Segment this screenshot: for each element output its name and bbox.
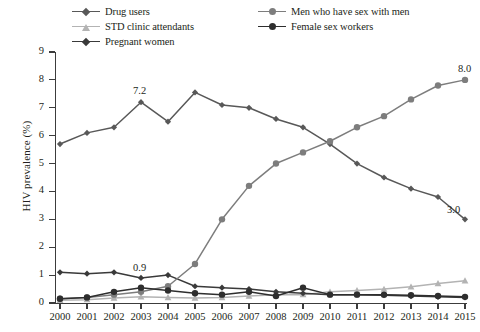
data-point-diamond-marker [381,174,387,180]
data-point-diamond-marker [246,105,252,111]
data-point-diamond-marker [57,269,63,275]
data-point-circle-marker [327,291,333,297]
data-point-circle-marker [354,124,360,130]
data-point-diamond-marker [111,269,117,275]
data-label: 0.9 [133,262,146,273]
data-point-circle-marker [192,261,198,267]
data-point-diamond-marker [165,272,171,278]
data-point-circle-marker [327,138,333,144]
data-point-circle-marker [462,77,468,83]
data-point-diamond-marker [84,130,90,136]
data-point-circle-marker [273,293,279,299]
data-point-diamond-marker [219,102,225,108]
data-point-diamond-marker [273,116,279,122]
data-label: 7.2 [133,85,146,96]
series-line [60,92,465,219]
data-point-circle-marker [435,293,441,299]
data-point-circle-marker [408,96,414,102]
data-point-circle-marker [381,291,387,297]
data-point-diamond-marker [192,283,198,289]
data-point-circle-marker [57,296,63,302]
series-layer [0,0,480,332]
data-point-circle-marker [192,290,198,296]
data-point-circle-marker [273,160,279,166]
data-label: 3.0 [447,204,460,215]
data-point-diamond-marker [84,271,90,277]
data-point-circle-marker [111,289,117,295]
data-point-diamond-marker [219,285,225,291]
data-point-circle-marker [84,294,90,300]
data-point-circle-marker [408,292,414,298]
data-point-circle-marker [246,183,252,189]
data-point-circle-marker [435,82,441,88]
data-point-circle-marker [165,287,171,293]
hiv-prevalence-line-chart: Drug usersSTD clinic attendantsPregnant … [0,0,480,332]
plot-area: 0123456789 20002001200220032004200520062… [0,0,480,332]
data-point-circle-marker [246,289,252,295]
data-point-circle-marker [219,291,225,297]
data-point-circle-marker [219,216,225,222]
data-point-circle-marker [354,291,360,297]
data-label: 8.0 [458,63,471,74]
data-point-circle-marker [138,284,144,290]
data-point-circle-marker [462,294,468,300]
data-point-circle-marker [300,149,306,155]
data-point-diamond-marker [57,141,63,147]
data-point-diamond-marker [138,275,144,281]
series-drug-users [57,89,468,222]
data-point-circle-marker [381,113,387,119]
series-men-who-have-sex-with-men [57,77,468,302]
data-point-diamond-marker [408,186,414,192]
data-point-circle-marker [300,284,306,290]
